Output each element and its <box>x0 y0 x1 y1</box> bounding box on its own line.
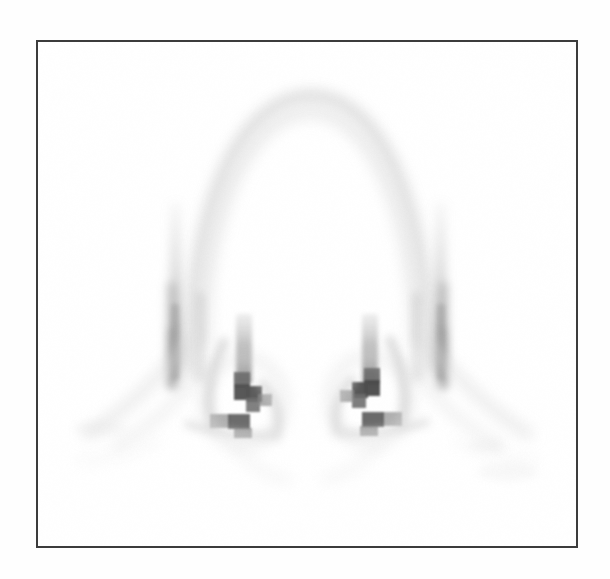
figure-root <box>0 0 610 579</box>
scintigraphy-scan-image <box>38 42 576 546</box>
scan-grain-overlay <box>38 42 576 546</box>
scan-frame-border <box>36 40 578 548</box>
